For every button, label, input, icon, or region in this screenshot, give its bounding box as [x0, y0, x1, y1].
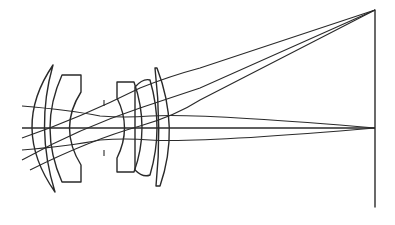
ray-field-upper: [22, 10, 375, 138]
ray-axial-lower: [22, 128, 375, 150]
ray-field-center: [22, 10, 375, 160]
lens-diagram: [0, 0, 395, 225]
ray-field-lower: [30, 10, 375, 170]
ray-traces: [22, 10, 375, 170]
ray-axial-upper: [22, 106, 375, 128]
